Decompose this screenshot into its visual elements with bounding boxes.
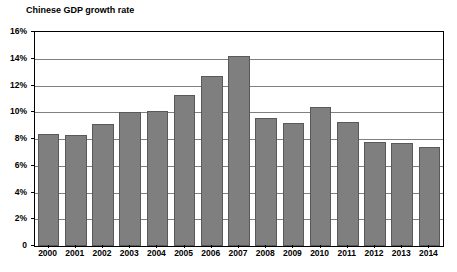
x-axis-tick-label: 2012 bbox=[365, 248, 384, 258]
x-axis-tick-label: 2004 bbox=[147, 248, 166, 258]
x-axis-tick-label: 2008 bbox=[256, 248, 275, 258]
x-axis-tick-label: 2013 bbox=[392, 248, 411, 258]
x-axis-tick-label: 2005 bbox=[174, 248, 193, 258]
bar bbox=[119, 112, 141, 246]
y-axis-tick-label: 16% bbox=[10, 26, 27, 36]
bar bbox=[174, 95, 196, 246]
bar bbox=[419, 147, 441, 246]
bar bbox=[92, 124, 114, 246]
x-axis: 2000200120022003200420052006200720082009… bbox=[34, 248, 442, 264]
x-axis-tick-label: 2011 bbox=[338, 248, 356, 258]
bar bbox=[147, 111, 169, 246]
x-axis-tick-label: 2009 bbox=[283, 248, 302, 258]
y-axis-tick-label: 2% bbox=[15, 213, 27, 223]
y-axis-tick-label: 10% bbox=[10, 106, 27, 116]
y-axis: 02%4%6%8%10%12%14%16% bbox=[0, 31, 31, 245]
x-axis-tick-label: 2000 bbox=[38, 248, 57, 258]
bar bbox=[201, 76, 223, 246]
bar bbox=[65, 135, 87, 246]
bar bbox=[255, 118, 277, 246]
bar bbox=[391, 143, 413, 246]
bar bbox=[283, 123, 305, 246]
chart-title: Chinese GDP growth rate bbox=[26, 5, 134, 15]
x-axis-tick-label: 2003 bbox=[120, 248, 139, 258]
y-axis-tick-label: 8% bbox=[15, 133, 27, 143]
bar bbox=[38, 134, 60, 246]
bar bbox=[364, 142, 386, 246]
x-axis-tick-label: 2010 bbox=[310, 248, 329, 258]
x-axis-tick-label: 2007 bbox=[229, 248, 248, 258]
x-axis-tick-label: 2002 bbox=[93, 248, 112, 258]
bar-series bbox=[35, 32, 443, 246]
x-axis-tick-label: 2001 bbox=[65, 248, 84, 258]
y-axis-tick-label: 14% bbox=[10, 53, 27, 63]
bar bbox=[228, 56, 250, 246]
y-axis-tick-label: 12% bbox=[10, 80, 27, 90]
plot-area bbox=[34, 31, 444, 247]
x-axis-tick-label: 2006 bbox=[201, 248, 220, 258]
bar bbox=[337, 122, 359, 246]
y-axis-tick-label: 0 bbox=[22, 240, 27, 250]
y-axis-tick-label: 6% bbox=[15, 160, 27, 170]
bar bbox=[310, 107, 332, 246]
bar-chart: Chinese GDP growth rate 02%4%6%8%10%12%1… bbox=[0, 0, 457, 272]
y-axis-tick-label: 4% bbox=[15, 187, 27, 197]
x-axis-tick-label: 2014 bbox=[419, 248, 438, 258]
